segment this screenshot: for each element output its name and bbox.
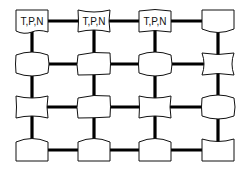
node-r1c3: T,P,N (139, 10, 171, 33)
mesh-diagram: T,P,NT,P,NT,P,N (0, 0, 247, 177)
node-shape (139, 96, 171, 118)
node-r4c3 (139, 139, 171, 162)
node-shape (16, 52, 50, 76)
node-shape (202, 139, 234, 161)
node-r2c4 (202, 53, 234, 75)
node-r1c1: T,P,N (16, 10, 48, 33)
node-label: T,P,N (143, 16, 166, 27)
node-shape (202, 10, 234, 33)
mesh-canvas: T,P,NT,P,NT,P,N (0, 0, 247, 177)
node-shape (202, 53, 234, 75)
node-r2c1 (16, 52, 50, 76)
node-r3c1 (16, 96, 48, 118)
node-shape (78, 139, 110, 162)
node-shape (77, 52, 111, 75)
node-shape (202, 95, 236, 119)
node-r3c2 (77, 95, 111, 118)
node-r2c2 (77, 52, 111, 75)
node-r1c2: T,P,N (78, 10, 110, 32)
node-shape (16, 96, 48, 118)
node-r3c4 (202, 95, 236, 119)
node-r1c4 (202, 10, 234, 33)
node-r2c3 (139, 52, 173, 76)
node-r3c3 (139, 96, 171, 118)
node-r4c1 (16, 139, 48, 162)
mesh-links (32, 21, 218, 150)
node-shape (16, 139, 48, 162)
node-r4c4 (202, 139, 234, 161)
node-r4c2 (78, 139, 110, 162)
node-label: T,P,N (20, 16, 43, 27)
mesh-nodes: T,P,NT,P,NT,P,N (16, 10, 236, 162)
node-label: T,P,N (82, 16, 105, 27)
node-shape (77, 95, 111, 118)
node-shape (139, 139, 171, 162)
node-shape (139, 52, 173, 76)
